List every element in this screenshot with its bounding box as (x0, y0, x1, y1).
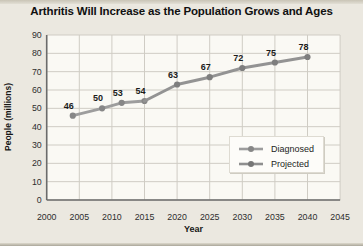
y-tick-label: 30 (32, 140, 42, 150)
data-point-label: 46 (64, 101, 74, 111)
x-tick-label: 2025 (200, 212, 220, 222)
data-point-marker-projected (207, 74, 213, 80)
y-tick-label: 70 (32, 67, 42, 77)
x-tick-label: 2040 (298, 212, 318, 222)
data-point-marker-projected (304, 54, 310, 60)
chart-legend: Diagnosed Projected (229, 136, 324, 173)
projected-line-marker-icon (238, 159, 264, 169)
x-tick-label: 2045 (330, 212, 350, 222)
x-tick-label: 2000 (37, 212, 57, 222)
x-tick-label: 2030 (233, 212, 253, 222)
y-tick-label: 10 (32, 177, 42, 187)
line-chart-plot-area: 2000200520102015202020252030203520402045… (0, 0, 363, 246)
page-background: Arthritis Will Increase as the Populatio… (0, 0, 363, 246)
data-point-marker-diagnosed (119, 100, 125, 106)
y-axis-title: People (millions) (3, 62, 15, 172)
x-tick-label: 2015 (135, 212, 155, 222)
data-point-marker-diagnosed (99, 105, 105, 111)
y-tick-label: 80 (32, 48, 42, 58)
data-point-label: 50 (93, 93, 103, 103)
data-point-marker-diagnosed (70, 113, 76, 119)
legend-row-projected: Projected (238, 156, 323, 171)
data-point-label: 54 (135, 86, 145, 96)
y-tick-label: 60 (32, 85, 42, 95)
data-point-marker-projected (272, 59, 278, 65)
data-point-marker-projected (174, 81, 180, 87)
data-point-label: 78 (298, 42, 308, 52)
y-tick-label: 0 (37, 195, 42, 205)
y-tick-label: 90 (32, 30, 42, 40)
diagnosed-line-marker-icon (238, 144, 264, 154)
x-tick-label: 2020 (167, 212, 187, 222)
data-point-label: 75 (266, 48, 276, 58)
legend-label-projected: Projected (271, 159, 309, 169)
x-tick-label: 2005 (70, 212, 90, 222)
y-tick-label: 50 (32, 103, 42, 113)
x-axis-title: Year (47, 224, 340, 234)
y-tick-label: 40 (32, 122, 42, 132)
legend-row-diagnosed: Diagnosed (238, 141, 323, 156)
y-tick-label: 20 (32, 158, 42, 168)
data-point-label: 67 (201, 62, 211, 72)
data-point-label: 72 (233, 53, 243, 63)
x-tick-label: 2010 (102, 212, 122, 222)
data-point-label: 53 (113, 88, 123, 98)
x-tick-label: 2035 (265, 212, 285, 222)
data-point-marker-projected (239, 65, 245, 71)
legend-label-diagnosed: Diagnosed (271, 144, 314, 154)
data-point-label: 63 (168, 70, 178, 80)
